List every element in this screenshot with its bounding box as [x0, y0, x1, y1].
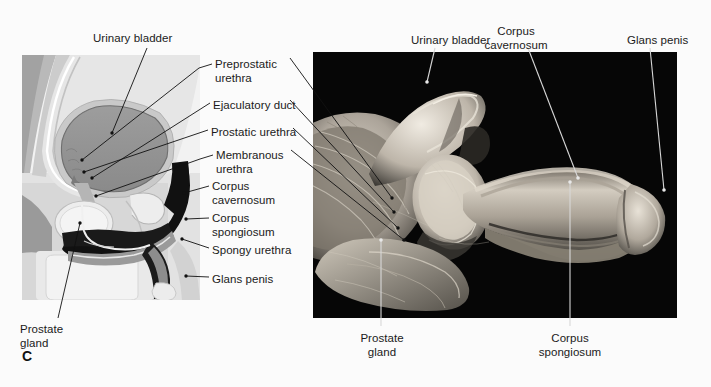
panel-letter-label: C [22, 348, 32, 364]
label-glans-penis-diagram: Glans penis [212, 273, 273, 287]
label-prostatic-urethra: Prostatic urethra [211, 126, 296, 140]
label-ejaculatory-duct: Ejaculatory duct [213, 99, 296, 113]
label-urinary-bladder-diagram: Urinary bladder [93, 32, 172, 46]
cadaver-photograph-panel [313, 52, 677, 318]
label-spongy-urethra: Spongy urethra [212, 244, 291, 258]
label-preprostatic-urethra: Preprostatic urethra [215, 58, 277, 85]
label-corpus-spongiosum-diagram: Corpus spongiosum [212, 212, 275, 239]
label-corpus-cavernosum-diagram: Corpus cavernosum [212, 180, 275, 207]
label-membranous-urethra: Membranous urethra [216, 149, 284, 176]
sagittal-line-drawing-panel [22, 55, 200, 300]
dissection-photograph-graphic [313, 52, 677, 318]
label-glans-penis-photo: Glans penis [627, 34, 688, 48]
label-prostate-gland-diagram: Prostate gland [20, 323, 63, 350]
label-corpus-spongiosum-photo: Corpus spongiosum [512, 332, 628, 359]
sagittal-diagram-graphic [22, 55, 200, 300]
label-corpus-cavernosum-photo: Corpus cavernosum [462, 25, 570, 52]
anatomy-figure-panel-c: Urinary bladder Preprostatic urethra Eja… [0, 0, 711, 387]
label-prostate-gland-photo: Prostate gland [340, 332, 424, 359]
